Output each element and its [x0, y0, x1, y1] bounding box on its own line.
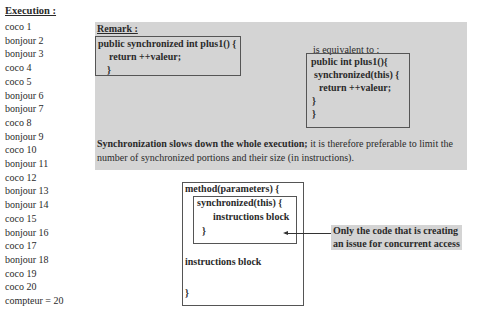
code-line: synchronized(this) { — [311, 68, 409, 81]
synchronization-note: Synchronization slows down the whole exe… — [97, 137, 457, 164]
inner-close-brace: } — [202, 225, 206, 236]
output-line: coco 1 — [5, 20, 63, 34]
output-line: bonjour 9 — [5, 130, 63, 144]
code-line: return ++valeur; — [98, 50, 240, 63]
synchronized-block-code-box: public int plus1(){ synchronized(this) {… — [306, 53, 410, 128]
outer-close-brace: } — [185, 287, 189, 298]
output-line: bonjour 6 — [5, 89, 63, 103]
output-line: bonjour 18 — [5, 253, 63, 267]
synchronized-method-code-box: public synchronized int plus1() { return… — [95, 36, 241, 76]
note-bold: Synchronization slows down the whole exe… — [97, 138, 308, 149]
arrow-head-icon — [283, 231, 288, 235]
output-line: coco 15 — [5, 212, 63, 226]
sync-line: synchronized(this) { — [197, 197, 282, 208]
output-line: coco 10 — [5, 143, 63, 157]
output-line: coco 5 — [5, 75, 63, 89]
code-line: public int plus1(){ — [311, 55, 409, 68]
output-line: bonjour 13 — [5, 184, 63, 198]
output-line: bonjour 16 — [5, 226, 63, 240]
code-line: return ++valeur; — [311, 81, 409, 94]
inner-instructions: instructions block — [213, 211, 289, 222]
output-line: coco 20 — [5, 280, 63, 294]
output-line: bonjour 11 — [5, 157, 63, 171]
output-line: coco 4 — [5, 61, 63, 75]
callout-label: Only the code that is creating an issue … — [331, 225, 462, 250]
code-line: } — [311, 107, 409, 120]
output-line: coco 8 — [5, 116, 63, 130]
callout-arrow-line — [285, 233, 331, 234]
callout-line: Only the code that is creating — [333, 225, 460, 238]
outer-instructions: instructions block — [185, 256, 261, 267]
callout-line: an issue for concurrent access — [333, 238, 460, 251]
output-line: coco 12 — [5, 171, 63, 185]
execution-output-list: coco 1 bonjour 2 bonjour 3 coco 4 coco 5… — [5, 20, 63, 308]
output-line: bonjour 2 — [5, 34, 63, 48]
output-line: coco 19 — [5, 267, 63, 281]
output-line: bonjour 7 — [5, 102, 63, 116]
code-line: } — [311, 94, 409, 107]
method-line: method(parameters) { — [185, 183, 279, 194]
remark-title: Remark : — [97, 23, 138, 34]
code-line: } — [98, 63, 240, 76]
output-line: coco 17 — [5, 239, 63, 253]
code-line: public synchronized int plus1() { — [98, 37, 240, 50]
output-line: compteur = 20 — [5, 294, 63, 308]
output-line: bonjour 14 — [5, 198, 63, 212]
execution-title: Execution : — [5, 5, 56, 16]
output-line: bonjour 3 — [5, 47, 63, 61]
